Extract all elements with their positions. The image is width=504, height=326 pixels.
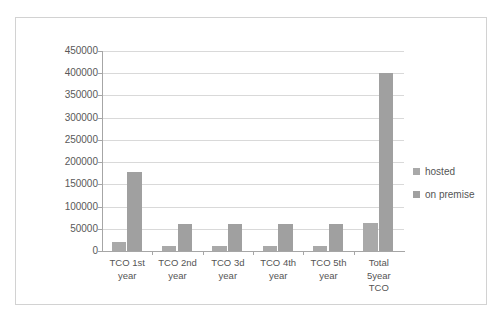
legend-item-on-premise[interactable]: on premise xyxy=(413,189,497,200)
y-axis-tick-label: 0 xyxy=(36,246,98,256)
x-axis-label-line: TCO 5th xyxy=(303,257,353,270)
x-axis-category-label: TCO 3dyear xyxy=(203,257,253,282)
bar-hosted-2[interactable] xyxy=(162,246,177,251)
legend-swatch-icon xyxy=(413,191,420,198)
x-axis-label-line: year xyxy=(102,270,152,283)
x-axis-label-line: year xyxy=(303,270,353,283)
bar-hosted-6[interactable] xyxy=(363,223,378,251)
bar-on-premise-2[interactable] xyxy=(178,224,193,251)
y-axis-tick-label: 300000 xyxy=(36,113,98,123)
x-axis-category-label: TCO 2ndyear xyxy=(152,257,202,282)
bar-on-premise-5[interactable] xyxy=(329,224,344,251)
y-axis-tick-label: 100000 xyxy=(36,202,98,212)
y-axis-tick-label: 350000 xyxy=(36,90,98,100)
x-axis-label-line: TCO 2nd xyxy=(152,257,202,270)
plot-area xyxy=(102,51,404,251)
x-axis-label-line: TCO 3d xyxy=(203,257,253,270)
x-axis-category-label: TCO 1styear xyxy=(102,257,152,282)
x-axis-label-line: Total xyxy=(354,257,404,270)
y-axis-tick-label: 450000 xyxy=(36,46,98,56)
bar-on-premise-1[interactable] xyxy=(127,172,142,251)
x-axis-label-line: TCO 4th xyxy=(253,257,303,270)
bar-hosted-4[interactable] xyxy=(263,246,278,251)
bar-on-premise-6[interactable] xyxy=(379,73,394,251)
bar-on-premise-4[interactable] xyxy=(278,224,293,251)
x-axis-label-line: year xyxy=(253,270,303,283)
y-axis-tick-label: 50000 xyxy=(36,224,98,234)
x-axis-category-label: TCO 4thyear xyxy=(253,257,303,282)
bar-hosted-5[interactable] xyxy=(313,246,328,251)
legend-item-label: on premise xyxy=(425,189,474,200)
legend-item-label: hosted xyxy=(425,166,455,177)
y-axis-tick-label: 400000 xyxy=(36,68,98,78)
x-axis-label-line: TCO xyxy=(354,282,404,295)
chart-legend: hostedon premise xyxy=(413,166,497,212)
x-axis-label-line: year xyxy=(152,270,202,283)
y-axis-tick-labels: 4500004000003500003000002500002000001500… xyxy=(36,18,98,304)
bar-hosted-3[interactable] xyxy=(212,246,227,251)
y-axis-tick-label: 250000 xyxy=(36,135,98,145)
x-axis-category-label: Total5yearTCO xyxy=(354,257,404,295)
x-axis-label-line: TCO 1st xyxy=(102,257,152,270)
x-axis-category-labels: TCO 1styearTCO 2ndyearTCO 3dyearTCO 4thy… xyxy=(102,257,405,305)
y-axis-tick-label: 150000 xyxy=(36,179,98,189)
x-axis-category-label: TCO 5thyear xyxy=(303,257,353,282)
bar-on-premise-3[interactable] xyxy=(228,224,243,251)
x-axis-label-line: 5year xyxy=(354,270,404,283)
y-axis-tick-label: 200000 xyxy=(36,157,98,167)
cropped-header-sliver: · · xyxy=(0,0,504,9)
bar-hosted-1[interactable] xyxy=(112,242,127,251)
x-axis-label-line: year xyxy=(203,270,253,283)
legend-swatch-icon xyxy=(413,168,420,175)
cropped-header-text: · · xyxy=(24,0,36,3)
chart-frame: 4500004000003500003000002500002000001500… xyxy=(15,17,487,305)
category-axis-line xyxy=(102,251,405,252)
legend-item-hosted[interactable]: hosted xyxy=(413,166,497,177)
